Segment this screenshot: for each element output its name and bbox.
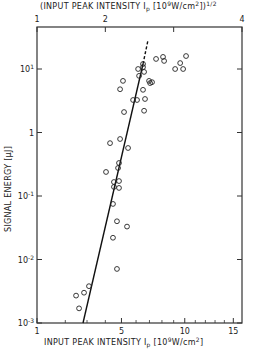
fit-line-dashed: [143, 40, 148, 64]
top-tick-label: 1: [34, 15, 39, 24]
data-point: [115, 267, 120, 272]
x-tick-label: 10: [180, 327, 190, 336]
data-point: [142, 70, 147, 75]
data-point: [104, 170, 109, 175]
data-point: [117, 179, 122, 184]
y-tick-label: 1: [29, 129, 34, 138]
x-tick-label: 1: [34, 327, 39, 336]
x-tick-label: 15: [228, 327, 238, 336]
tick-marks: 15101512410-310-210-11101: [18, 15, 245, 336]
data-point: [181, 67, 186, 72]
top-tick-label: 4: [239, 15, 244, 24]
data-point: [184, 54, 189, 59]
data-point: [74, 293, 79, 298]
fit-lines: [83, 40, 148, 323]
y-tick-label: 10-2: [18, 254, 34, 265]
x-tick-label: 5: [119, 327, 124, 336]
signal-energy-chart: 15101512410-310-210-11101 (INPUT PEAK IN…: [0, 0, 253, 352]
data-point: [125, 224, 130, 229]
data-point: [87, 284, 92, 289]
y-tick-label: 10-1: [18, 190, 34, 201]
y-tick-label: 101: [20, 63, 34, 74]
data-point: [118, 87, 123, 92]
fit-line-solid: [83, 64, 143, 323]
data-point: [126, 146, 131, 151]
data-point: [118, 137, 123, 142]
data-point: [121, 78, 126, 83]
data-point: [154, 57, 159, 62]
y-tick-label: 10-3: [18, 317, 34, 328]
y-axis-title: SIGNAL ENERGY [µJ]: [4, 146, 13, 232]
data-point: [115, 219, 120, 224]
data-points: [74, 54, 189, 311]
data-point: [117, 186, 122, 191]
data-point: [122, 110, 127, 115]
data-point: [143, 97, 148, 102]
data-point: [111, 235, 116, 240]
chart-canvas: 15101512410-310-210-11101 (INPUT PEAK IN…: [0, 0, 253, 352]
data-point: [77, 306, 82, 311]
data-point: [82, 290, 87, 295]
data-point: [141, 87, 146, 92]
data-point: [136, 67, 141, 72]
bottom-axis-title: INPUT PEAK INTENSITY Ip [109W/cm2]: [44, 336, 203, 349]
data-point: [108, 141, 113, 146]
data-point: [173, 67, 178, 72]
data-point: [142, 108, 147, 113]
data-point: [178, 61, 183, 66]
top-tick-label: 2: [103, 15, 108, 24]
top-axis-title: (INPUT PEAK INTENSITY Ip [109W/cm2])1/2: [40, 0, 217, 13]
